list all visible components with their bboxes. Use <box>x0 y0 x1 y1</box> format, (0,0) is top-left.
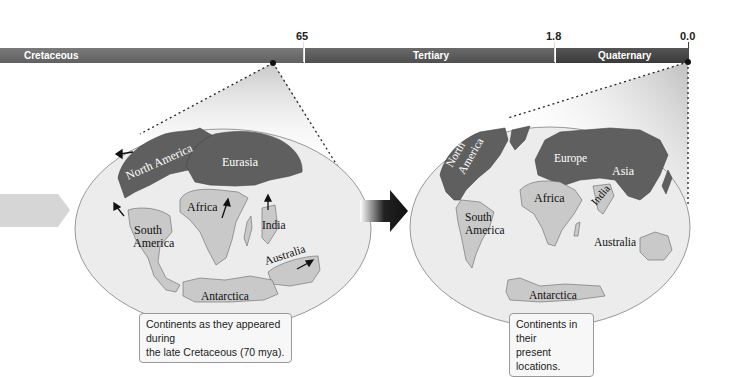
gray-arrow-icon <box>0 194 70 227</box>
caption-present-line2: present locations. <box>516 345 587 373</box>
cretaceous-map: North America Eurasia Africa South Ameri… <box>75 128 371 329</box>
label-africa-present: Africa <box>534 191 565 205</box>
caption-cretaceous-line1: Continents as they appeared during <box>146 317 285 345</box>
caption-present: Continents in their present locations. <box>509 313 594 377</box>
caption-present-line1: Continents in their <box>516 317 587 345</box>
label-antarctica-present: Antarctica <box>529 289 577 301</box>
caption-cretaceous-line2: the late Cretaceous (70 mya). <box>146 345 285 359</box>
label-antarctica-cretaceous: Antarctica <box>201 290 249 302</box>
caption-cretaceous: Continents as they appeared during the l… <box>139 313 292 363</box>
label-eurasia: Eurasia <box>222 155 259 169</box>
label-south-america-1: South <box>134 223 162 237</box>
label-india-cretaceous: India <box>262 219 286 231</box>
label-australia-present: Australia <box>594 236 636 248</box>
label-asia: Asia <box>612 164 635 178</box>
label-africa-cretaceous: Africa <box>187 200 218 214</box>
label-south-2: America <box>465 224 505 236</box>
label-europe: Europe <box>554 152 587 165</box>
present-day-map: North America Europe Asia Africa India S… <box>410 126 690 327</box>
label-south-america-2: America <box>133 236 175 250</box>
label-south-1: South <box>465 211 492 223</box>
